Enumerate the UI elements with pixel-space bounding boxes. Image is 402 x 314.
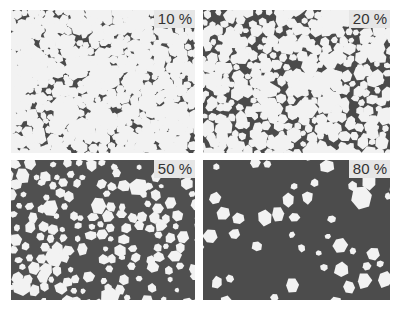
grain-structure-image — [203, 160, 390, 300]
micrograph-panel-50: 50 % — [11, 160, 195, 300]
fraction-label: 20 % — [349, 10, 390, 28]
grain-structure-image — [11, 10, 195, 153]
grain-structure-image — [11, 160, 195, 300]
micrograph-panel-10: 10 % — [11, 10, 195, 153]
fraction-label: 10 % — [154, 10, 195, 28]
micrograph-panel-20: 20 % — [203, 10, 390, 153]
grain-structure-image — [203, 10, 390, 153]
micrograph-panel-80: 80 % — [203, 160, 390, 300]
fraction-label: 50 % — [154, 160, 195, 178]
fraction-label: 80 % — [349, 160, 390, 178]
